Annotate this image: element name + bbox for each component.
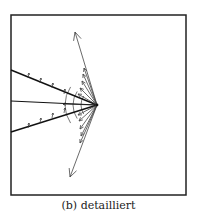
apex-point (96, 104, 99, 107)
vector-field-diagram (0, 0, 197, 219)
inner-arrow (63, 104, 97, 105)
diagram-figure: (b) detailliert (0, 0, 197, 219)
wedge-line (11, 105, 97, 132)
nested-arrow-down (80, 105, 97, 129)
frame (11, 15, 186, 195)
figure-caption: (b) detailliert (0, 199, 197, 212)
long-arrow (70, 105, 97, 177)
